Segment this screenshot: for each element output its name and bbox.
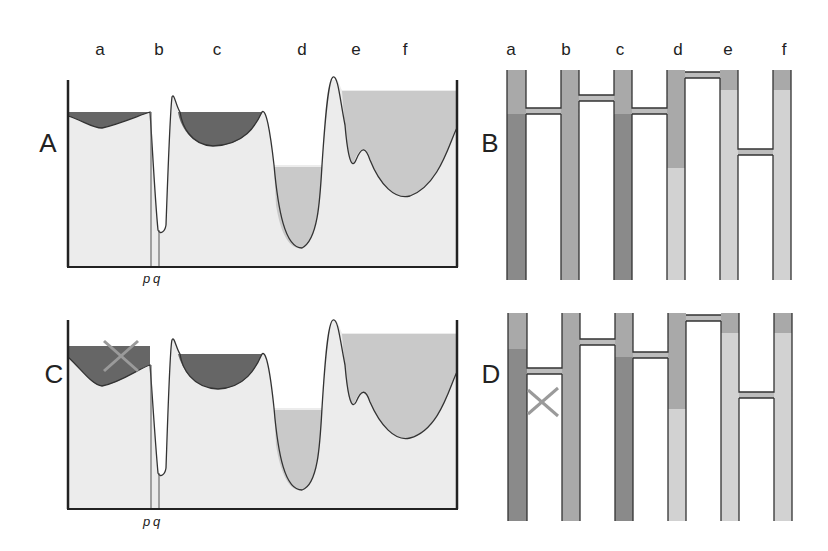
marker-q-a: q bbox=[153, 271, 161, 286]
panel-a-landscape bbox=[67, 77, 458, 267]
column-labels-right: a b c d e f bbox=[506, 40, 786, 59]
panel-label-b: B bbox=[481, 128, 498, 158]
panel-label-c: C bbox=[45, 359, 64, 389]
marker-p-c: p bbox=[142, 514, 150, 529]
column-labels-left: a b c d e f bbox=[95, 40, 407, 59]
col-label-c: c bbox=[213, 40, 222, 59]
panel-label-a: A bbox=[39, 128, 57, 158]
col-label-c: c bbox=[616, 40, 625, 59]
col-label-e: e bbox=[723, 40, 732, 59]
col-label-f: f bbox=[403, 40, 408, 59]
col-label-f: f bbox=[782, 40, 787, 59]
col-label-b: b bbox=[561, 40, 570, 59]
col-label-d: d bbox=[297, 40, 306, 59]
marker-q-c: q bbox=[153, 514, 161, 529]
col-label-a: a bbox=[506, 40, 516, 59]
diagram-canvas: a b c d e f a b c d e f A B C D bbox=[0, 0, 828, 551]
col-label-b: b bbox=[154, 40, 163, 59]
panel-c-landscape bbox=[67, 320, 458, 509]
col-label-a: a bbox=[95, 40, 105, 59]
panel-d-tubes bbox=[508, 313, 792, 521]
col-label-e: e bbox=[351, 40, 360, 59]
marker-p-a: p bbox=[142, 271, 150, 286]
panel-label-d: D bbox=[482, 359, 501, 389]
col-label-d: d bbox=[673, 40, 682, 59]
panel-b-tubes bbox=[507, 70, 791, 280]
